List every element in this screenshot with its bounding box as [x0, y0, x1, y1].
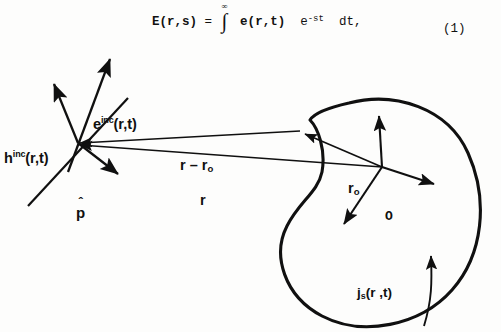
label-r0-vector: ro [348, 181, 360, 197]
axis-z-arrow [379, 116, 382, 167]
label-surface-current: js(r ,t) [357, 286, 392, 301]
diagram-canvas [0, 50, 501, 332]
equation-band: E(r,s) = ∞ ∫ e(r,t) e-st dt, (1) [0, 6, 501, 52]
equation-expression: E(r,s) = ∞ ∫ e(r,t) e-st dt, [152, 14, 361, 29]
label-origin: O [385, 210, 393, 223]
label-e-incident-superscript: inc [101, 115, 113, 125]
equation-lhs-variable: r [167, 15, 175, 29]
p-hat-caret: ˆ [78, 197, 82, 210]
equation-equals: = [205, 15, 213, 29]
label-r-minus-r0: r – ro [180, 158, 213, 174]
equation-lhs: E( [152, 15, 167, 29]
exponential-base: e [300, 15, 308, 29]
equation-lhs-tail: ,s) [175, 15, 198, 29]
equation-number: (1) [443, 22, 466, 36]
label-p-hat: ˆp [76, 205, 85, 220]
integral-glyph: ∫ [222, 11, 228, 32]
label-e-incident: einc(r,t) [93, 116, 137, 131]
exponential-exponent: -st [308, 14, 324, 24]
scattering-diagram: hinc(r,t) einc(r,t) ˆp r – ro r ro O js(… [0, 50, 501, 332]
label-r-minus-r0-subscript: o [207, 163, 213, 174]
integral-sign: ∞ ∫ [220, 14, 233, 27]
figure-page: E(r,s) = ∞ ∫ e(r,t) e-st dt, (1) [0, 0, 501, 332]
label-r-vector: r [200, 193, 206, 208]
integrand-variable: r [255, 15, 263, 29]
integrand-tail: ,t) [263, 15, 286, 29]
surface-current-leader-arrow [424, 256, 431, 326]
integrand-head: e( [240, 15, 255, 29]
axis-y-arrow [382, 167, 434, 184]
differential-dt: dt, [339, 15, 362, 29]
label-h-incident-args: (r,t) [25, 150, 48, 166]
r-minus-r0-vector-arrow [80, 131, 300, 143]
label-e-incident-args: (r,t) [113, 116, 136, 132]
label-h-incident-superscript: inc [13, 149, 25, 159]
label-surface-current-args: (r ,t) [366, 285, 392, 300]
h-incident-vector-arrow [54, 84, 78, 143]
label-r0-subscript: o [354, 186, 360, 197]
label-h-incident: hinc(r,t) [4, 150, 49, 165]
